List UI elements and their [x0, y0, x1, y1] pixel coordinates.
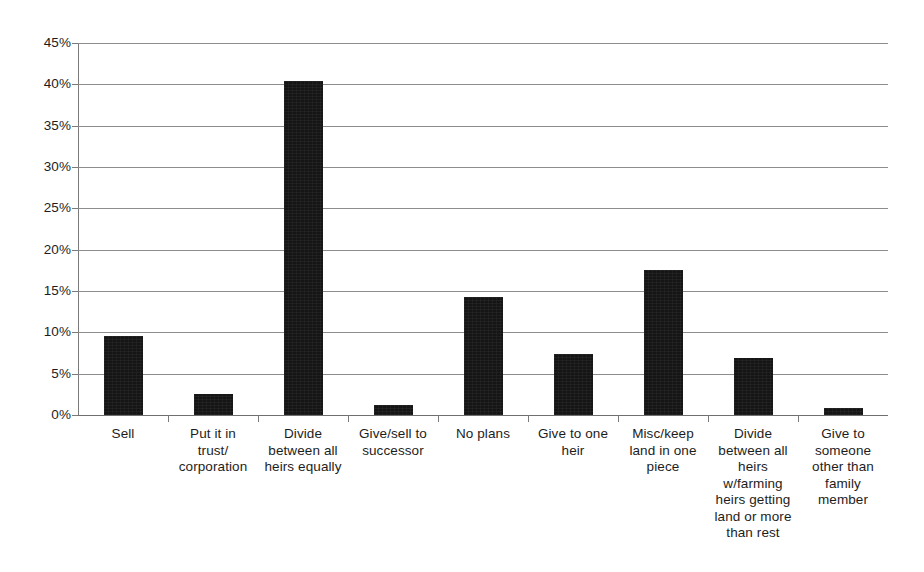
gridline [78, 208, 888, 209]
x-axis-tick [348, 415, 349, 422]
x-axis-tick [168, 415, 169, 422]
bar [644, 270, 683, 415]
x-axis-tick [618, 415, 619, 422]
y-axis-tick-label: 0% [9, 408, 71, 421]
y-axis-tick [72, 84, 78, 85]
y-axis-tick-label: 30% [9, 160, 71, 173]
bar [194, 394, 233, 415]
x-axis-category-label: Divide between all heirs equally [260, 426, 346, 476]
bar [554, 354, 593, 415]
y-axis-tick-label: 25% [9, 201, 71, 214]
x-axis-tick [708, 415, 709, 422]
bar [734, 358, 773, 415]
y-axis-tick [72, 332, 78, 333]
x-axis-category-label: Give to one heir [530, 426, 616, 459]
y-axis-tick-label: 45% [9, 36, 71, 49]
x-axis-tick [258, 415, 259, 422]
x-axis-category-label: Give to someone other than family member [800, 426, 886, 509]
y-axis-tick [72, 208, 78, 209]
y-axis-tick [72, 167, 78, 168]
bar [464, 297, 503, 415]
x-axis-category-label: No plans [440, 426, 526, 443]
gridline [78, 126, 888, 127]
x-axis-category-label: Put it in trust/ corporation [170, 426, 256, 476]
y-axis-tick [72, 374, 78, 375]
gridline [78, 84, 888, 85]
bar [374, 405, 413, 415]
bar [824, 408, 863, 415]
gridline [78, 250, 888, 251]
x-axis-tick [438, 415, 439, 422]
y-axis-tick-label: 40% [9, 77, 71, 90]
y-axis-tick [72, 250, 78, 251]
gridline [78, 167, 888, 168]
gridline [78, 291, 888, 292]
bar-chart: 0%5%10%15%20%25%30%35%40%45% SellPut it … [0, 0, 924, 572]
y-axis-tick [72, 43, 78, 44]
x-axis-category-label: Divide between all heirs w/farming heirs… [710, 426, 796, 542]
y-axis-tick-label: 10% [9, 325, 71, 338]
y-axis-tick-label: 15% [9, 284, 71, 297]
x-axis-category-labels: SellPut it in trust/ corporationDivide b… [78, 426, 888, 572]
bar [284, 81, 323, 415]
x-axis-category-label: Give/sell to successor [350, 426, 436, 459]
x-axis-ticks [78, 415, 888, 425]
y-axis-tick-labels: 0%5%10%15%20%25%30%35%40%45% [0, 0, 71, 572]
x-axis-tick [528, 415, 529, 422]
y-axis-tick-label: 5% [9, 367, 71, 380]
gridline [78, 43, 888, 44]
x-axis-category-label: Sell [80, 426, 166, 443]
y-axis-tick [72, 126, 78, 127]
y-axis-tick-label: 20% [9, 243, 71, 256]
y-axis-tick [72, 415, 78, 416]
plot-area [78, 43, 888, 415]
y-axis-tick [72, 291, 78, 292]
bar [104, 336, 143, 415]
x-axis-category-label: Misc/keep land in one piece [620, 426, 706, 476]
x-axis-tick [798, 415, 799, 422]
y-axis-tick-label: 35% [9, 119, 71, 132]
